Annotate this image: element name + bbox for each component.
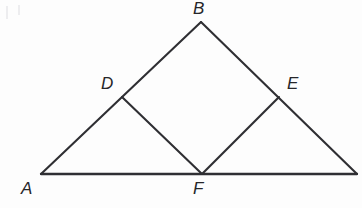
scan-artifact <box>18 5 20 15</box>
vertex-label-d: D <box>101 75 113 92</box>
vertex-label-b: B <box>193 0 204 17</box>
geometry-diagram: A B D E F <box>0 0 362 208</box>
segment-D-F <box>122 97 202 174</box>
segment-F-E <box>202 97 279 174</box>
vertex-label-e: E <box>287 75 298 92</box>
scan-artifact <box>6 6 8 19</box>
vertex-label-a: A <box>21 180 32 197</box>
figure-canvas <box>0 0 362 208</box>
vertex-label-f: F <box>193 180 203 197</box>
